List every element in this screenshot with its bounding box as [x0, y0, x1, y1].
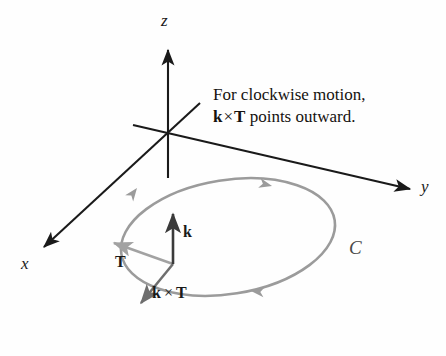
k-cross-T-vector-label: k×T [152, 285, 187, 301]
T-vector-label: T [115, 254, 126, 270]
curve-C-path [112, 164, 343, 310]
k-cross-T-label-k: k [152, 284, 161, 301]
diagram-canvas [0, 0, 446, 356]
figure-caption: For clockwise motion, k×T points outward… [213, 84, 443, 129]
y-axis-label: y [421, 178, 429, 195]
curve-C-label: C [349, 238, 362, 257]
caption-vector-t: T [234, 107, 245, 126]
k-cross-T-label-t: T [176, 284, 187, 301]
caption-line-1: For clockwise motion, [213, 84, 443, 106]
caption-times-symbol: × [222, 107, 234, 126]
x-axis-line [44, 103, 200, 247]
z-axis-label: z [161, 12, 168, 29]
caption-rest: points outward. [250, 107, 356, 126]
curve-direction-arrows [125, 178, 273, 297]
k-cross-T-label-times: × [161, 284, 176, 301]
axes-group [44, 50, 410, 247]
vector-diagram-figure: z y x C k T k×T For clockwise motion, k×… [0, 0, 446, 356]
curve-arrow-upper-left [125, 185, 141, 201]
x-axis-label: x [21, 255, 29, 272]
k-vector-label: k [183, 224, 192, 240]
caption-line-2: k×T points outward. [213, 106, 443, 128]
curve-C-group [112, 164, 343, 310]
